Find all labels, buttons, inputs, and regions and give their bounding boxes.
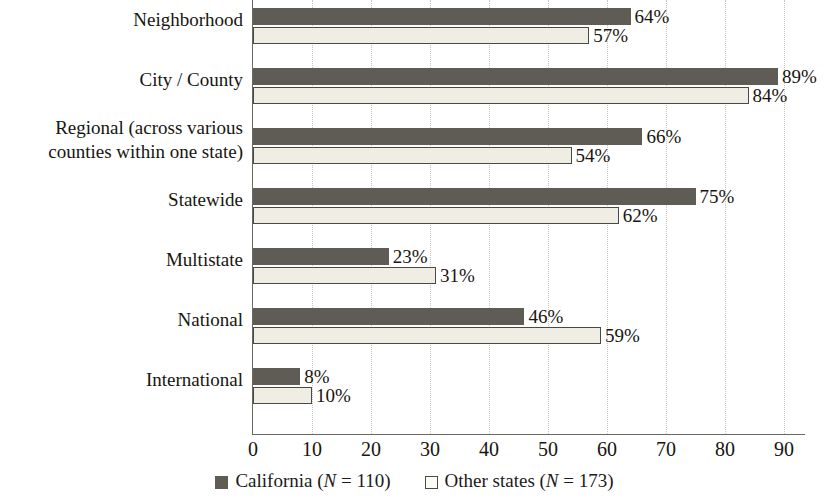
chart-row: Multistate23%31% bbox=[0, 235, 829, 295]
legend-item-california[interactable]: California (N = 110) bbox=[215, 470, 390, 492]
bar-value-label: 59% bbox=[605, 326, 640, 345]
legend-label: California (N = 110) bbox=[235, 470, 390, 492]
x-axis-line bbox=[252, 434, 805, 435]
category-label: International bbox=[0, 368, 243, 391]
legend-item-other-states[interactable]: Other states (N = 173) bbox=[425, 470, 614, 492]
bar-other-states bbox=[253, 27, 589, 44]
bar-value-label: 75% bbox=[700, 187, 735, 206]
chart-row: National46%59% bbox=[0, 295, 829, 355]
chart-row: City / County89%84% bbox=[0, 55, 829, 115]
bar-value-label: 62% bbox=[623, 206, 658, 225]
legend-label: Other states (N = 173) bbox=[445, 470, 614, 492]
bar-item: 62% bbox=[253, 207, 658, 224]
bar-item: 66% bbox=[253, 128, 681, 145]
x-axis-ticks: 0102030405060708090 bbox=[252, 437, 805, 465]
bar-other-states bbox=[253, 387, 312, 404]
bar-value-label: 89% bbox=[782, 67, 817, 86]
bar-california bbox=[253, 8, 631, 25]
category-label: Regional (across variouscounties within … bbox=[0, 116, 243, 164]
category-label-line: Regional (across various bbox=[0, 116, 243, 140]
bar-item: 75% bbox=[253, 188, 734, 205]
filled-square-icon bbox=[215, 476, 228, 489]
bar-item: 10% bbox=[253, 387, 351, 404]
bar-item: 54% bbox=[253, 147, 610, 164]
x-tick-label-80: 80 bbox=[715, 437, 735, 461]
x-tick-label-20: 20 bbox=[361, 437, 381, 461]
x-tick-label-70: 70 bbox=[656, 437, 676, 461]
bar-value-label: 23% bbox=[393, 247, 428, 266]
bar-item: 89% bbox=[253, 68, 817, 85]
bar-item: 46% bbox=[253, 308, 563, 325]
bar-california bbox=[253, 188, 696, 205]
bar-value-label: 8% bbox=[304, 367, 329, 386]
bar-value-label: 31% bbox=[440, 266, 475, 285]
bar-item: 64% bbox=[253, 8, 669, 25]
category-label: National bbox=[0, 308, 243, 331]
horizontal-bar-chart: Neighborhood64%57%City / County89%84%Reg… bbox=[0, 0, 829, 502]
bar-item: 8% bbox=[253, 368, 330, 385]
bar-california bbox=[253, 128, 642, 145]
bar-other-states bbox=[253, 147, 572, 164]
category-label: Neighborhood bbox=[0, 8, 243, 31]
chart-row: Statewide75%62% bbox=[0, 175, 829, 235]
bar-item: 59% bbox=[253, 327, 640, 344]
bar-value-label: 57% bbox=[593, 26, 628, 45]
bar-value-label: 46% bbox=[528, 307, 563, 326]
category-label-line: counties within one state) bbox=[0, 140, 243, 164]
bar-item: 23% bbox=[253, 248, 428, 265]
x-tick-label-50: 50 bbox=[538, 437, 558, 461]
bar-item: 57% bbox=[253, 27, 628, 44]
bar-other-states bbox=[253, 87, 749, 104]
bar-california bbox=[253, 368, 300, 385]
x-tick-label-90: 90 bbox=[774, 437, 794, 461]
category-label: Multistate bbox=[0, 248, 243, 271]
bar-item: 31% bbox=[253, 267, 475, 284]
bar-value-label: 54% bbox=[576, 146, 611, 165]
bar-value-label: 10% bbox=[316, 386, 351, 405]
x-tick-label-10: 10 bbox=[302, 437, 322, 461]
chart-row: Regional (across variouscounties within … bbox=[0, 115, 829, 175]
bar-value-label: 66% bbox=[646, 127, 681, 146]
chart-row: Neighborhood64%57% bbox=[0, 0, 829, 55]
bar-value-label: 84% bbox=[753, 86, 788, 105]
bar-other-states bbox=[253, 327, 601, 344]
x-tick-label-40: 40 bbox=[479, 437, 499, 461]
bar-california bbox=[253, 248, 389, 265]
bar-item: 84% bbox=[253, 87, 787, 104]
category-label: Statewide bbox=[0, 188, 243, 211]
bar-value-label: 64% bbox=[635, 7, 670, 26]
category-label: City / County bbox=[0, 68, 243, 91]
chart-legend: California (N = 110)Other states (N = 17… bbox=[0, 470, 829, 492]
x-tick-label-0: 0 bbox=[248, 437, 258, 461]
chart-row: International8%10% bbox=[0, 355, 829, 415]
bar-other-states bbox=[253, 267, 436, 284]
bar-california bbox=[253, 308, 524, 325]
x-tick-label-60: 60 bbox=[597, 437, 617, 461]
x-tick-label-30: 30 bbox=[420, 437, 440, 461]
bar-california bbox=[253, 68, 778, 85]
bar-other-states bbox=[253, 207, 619, 224]
open-square-icon bbox=[425, 476, 438, 489]
